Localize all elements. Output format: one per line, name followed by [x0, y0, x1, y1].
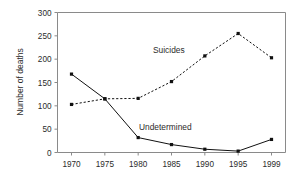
y-axis-label: Number of deaths: [15, 48, 25, 116]
y-tick-labels: 050100150200250300: [38, 9, 52, 158]
x-tick-label: 1999: [262, 160, 281, 169]
data-point-marker: [70, 73, 73, 76]
data-point-marker: [170, 143, 173, 146]
x-tick-label: 1995: [229, 160, 248, 169]
data-point-marker: [270, 138, 273, 141]
data-point-marker: [137, 97, 140, 100]
series-undetermined: [70, 73, 273, 153]
series-label-undetermined: Undetermined: [139, 122, 192, 132]
series-line-undetermined: [72, 74, 272, 151]
data-point-marker: [103, 97, 106, 100]
series-label-suicides: Suicides: [153, 45, 185, 55]
y-tick-label: 250: [38, 32, 52, 41]
data-point-marker: [203, 54, 206, 57]
y-tick-label: 150: [38, 79, 52, 88]
line-chart: Number of deaths 050100150200250300 1970…: [0, 0, 302, 179]
y-tick-label: 50: [42, 125, 52, 134]
x-tick-label: 1990: [196, 160, 215, 169]
data-point-marker: [237, 150, 240, 153]
y-tick-label: 100: [38, 102, 52, 111]
data-point-marker: [137, 136, 140, 139]
x-tick-label: 1985: [162, 160, 181, 169]
data-point-marker: [237, 32, 240, 35]
x-tick-label: 1975: [96, 160, 115, 169]
data-point-marker: [170, 80, 173, 83]
y-tick-label: 300: [38, 9, 52, 18]
x-tick-label: 1970: [62, 160, 81, 169]
y-tick-label: 0: [47, 149, 52, 158]
data-point-marker: [203, 148, 206, 151]
x-tick-labels: 1970197519801985199019951999: [62, 160, 281, 169]
chart-figure: Number of deaths 050100150200250300 1970…: [0, 0, 302, 179]
data-point-marker: [270, 56, 273, 59]
x-tick-label: 1980: [129, 160, 148, 169]
y-tick-label: 200: [38, 55, 52, 64]
data-point-marker: [70, 103, 73, 106]
